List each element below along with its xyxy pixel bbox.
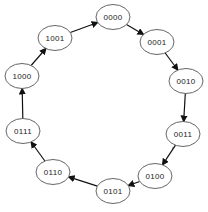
transition-arrow-0000-to-0001 [127, 25, 144, 35]
state-node-0100: 0100 [138, 164, 172, 189]
state-label: 1001 [46, 34, 65, 43]
arrow-line [127, 25, 144, 35]
transition-arrow-0110-to-0111 [31, 142, 45, 161]
transition-arrow-1000-to-1001 [31, 49, 46, 66]
state-node-0010: 0010 [169, 69, 203, 94]
state-node-0011: 0011 [166, 122, 200, 147]
arrow-line [69, 177, 98, 186]
state-label: 0111 [14, 127, 32, 136]
transition-arrow-0010-to-0011 [184, 94, 186, 122]
arrow-line [128, 182, 139, 186]
transition-arrow-0101-to-0110 [69, 177, 98, 186]
transition-arrow-0001-to-0010 [165, 53, 178, 70]
transition-arrow-0100-to-0101 [128, 182, 139, 186]
state-label: 0010 [177, 77, 196, 86]
arrow-line [22, 89, 23, 119]
state-label: 0001 [148, 38, 167, 47]
state-node-1000: 1000 [5, 64, 39, 89]
transition-arrow-1001-to-0000 [70, 23, 97, 33]
state-node-0001: 0001 [140, 30, 174, 55]
state-label: 0011 [174, 130, 193, 139]
transition-arrow-0111-to-1000 [22, 89, 23, 119]
arrow-line [165, 53, 178, 70]
stray-dot [172, 147, 173, 148]
nodes-group: 0000000100100011010001010110011110001001 [5, 5, 203, 204]
state-node-1001: 1001 [38, 26, 72, 51]
arrow-line [70, 23, 97, 33]
state-label: 0000 [104, 13, 123, 22]
state-diagram: 0000000100100011010001010110011110001001 [0, 0, 208, 212]
state-node-0110: 0110 [36, 160, 70, 185]
state-label: 1000 [13, 72, 32, 81]
state-node-0111: 0111 [6, 119, 40, 144]
state-label: 0100 [146, 172, 165, 181]
state-node-0101: 0101 [96, 179, 130, 204]
state-label: 0110 [44, 168, 63, 177]
arrow-line [184, 94, 186, 122]
state-label: 0101 [104, 187, 123, 196]
state-node-0000: 0000 [96, 5, 130, 30]
arrow-line [31, 142, 45, 161]
arrow-line [31, 49, 46, 66]
